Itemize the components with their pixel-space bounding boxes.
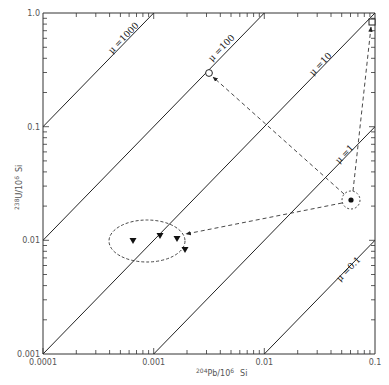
cluster-ellipse xyxy=(109,220,185,262)
arrow-to-cluster xyxy=(186,203,342,234)
arrow-to-square xyxy=(353,27,371,191)
mu-100-label: μ =100 xyxy=(206,32,237,63)
x-tick-2: 0.01 xyxy=(255,358,273,367)
mu-labels: μ =1000 μ =100 μ =10 μ =1 μ =0.1 xyxy=(106,20,362,283)
x-tick-1: 0.001 xyxy=(142,358,165,367)
y-tick-0: 0.001 xyxy=(17,350,40,359)
triangle-down-icon xyxy=(174,236,181,242)
mu-1000-label: μ =1000 xyxy=(106,20,141,55)
x-axis-title: 204Pb/106Si xyxy=(196,367,247,378)
triangle-markers xyxy=(130,233,189,253)
y-axis-title: 238U/106Si xyxy=(13,165,24,210)
mu-1-label: μ =1 xyxy=(333,143,355,166)
triangle-down-icon xyxy=(130,238,137,244)
open-square-marker xyxy=(369,19,375,25)
x-tick-labels: 0.0001 0.001 0.01 0.1 xyxy=(29,358,381,367)
open-circle-marker xyxy=(206,70,213,77)
mu-0.1-label: μ =0.1 xyxy=(334,255,362,284)
filled-dot-icon xyxy=(348,197,353,202)
y-tick-3: 1.0 xyxy=(27,9,40,18)
y-tick-1: 0.01 xyxy=(22,236,40,245)
x-tick-0: 0.0001 xyxy=(29,358,57,367)
y-tick-2: 0.1 xyxy=(27,123,40,132)
triangle-down-icon xyxy=(182,247,189,253)
x-tick-3: 0.1 xyxy=(369,358,382,367)
arrow-to-open-circle xyxy=(213,77,344,194)
log-log-chart: 0.0001 0.001 0.01 0.1 0.001 0.01 0.1 1.0… xyxy=(0,0,389,385)
mu-10-label: μ =10 xyxy=(307,50,334,77)
mu-100-line xyxy=(43,13,264,240)
source-point xyxy=(342,191,360,209)
